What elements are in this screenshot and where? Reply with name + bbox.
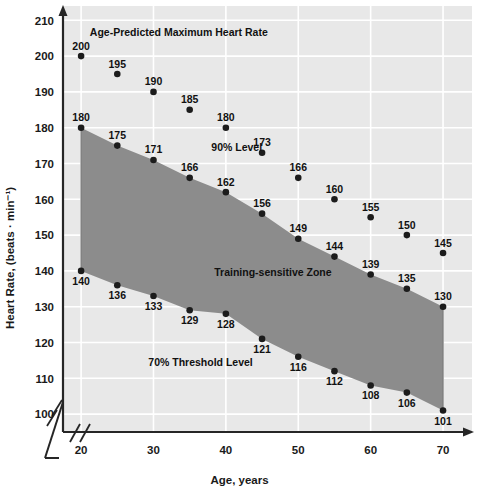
data-point[interactable]: [78, 53, 85, 60]
heart-rate-training-zone-chart: 2001951901851801731661601551501451801751…: [0, 0, 480, 496]
data-point-label: 160: [326, 183, 344, 195]
data-point[interactable]: [367, 382, 374, 389]
y-axis-tick-label: 140: [35, 265, 54, 277]
data-point-label: 162: [217, 176, 235, 188]
data-point-label: 140: [72, 275, 90, 287]
data-point[interactable]: [223, 311, 230, 318]
x-axis-tick-label: 30: [147, 444, 160, 456]
data-point[interactable]: [150, 157, 157, 164]
data-point-label: 144: [326, 240, 344, 252]
data-point-label: 112: [326, 375, 343, 387]
data-point-label: 130: [434, 290, 452, 302]
data-point[interactable]: [186, 175, 193, 182]
data-point[interactable]: [331, 368, 338, 375]
y-axis-title: Heart Rate, (beats · min⁻¹): [4, 187, 16, 329]
data-point-label: 156: [253, 197, 271, 209]
data-point-label: 149: [289, 222, 307, 234]
data-point-label: 136: [109, 289, 127, 301]
data-point[interactable]: [78, 268, 85, 275]
data-point-label: 155: [362, 201, 380, 213]
y-axis-tick-label: 160: [35, 194, 54, 206]
data-point[interactable]: [223, 189, 230, 196]
chart-annotation: Age-Predicted Maximum Heart Rate: [90, 26, 268, 38]
y-axis-tick-label: 180: [35, 122, 54, 134]
y-axis-tick-label: 150: [35, 229, 54, 241]
data-point-label: 180: [72, 111, 90, 123]
data-point-label: 200: [72, 40, 90, 52]
data-point-label: 166: [181, 161, 199, 173]
data-point-label: 145: [434, 237, 452, 249]
data-point-label: 121: [253, 343, 271, 355]
data-point-label: 175: [109, 129, 127, 141]
data-point[interactable]: [367, 214, 374, 221]
data-point[interactable]: [440, 303, 447, 310]
data-point[interactable]: [331, 253, 338, 260]
y-axis-tick-label: 210: [35, 15, 54, 27]
data-point-label: 180: [217, 111, 235, 123]
y-axis-tick-label: 120: [35, 337, 54, 349]
data-point[interactable]: [440, 250, 447, 257]
data-point[interactable]: [404, 389, 411, 396]
data-point[interactable]: [440, 407, 447, 414]
data-point-label: 135: [398, 272, 416, 284]
data-point-label: 195: [109, 58, 127, 70]
x-axis-tick-label: 70: [437, 444, 450, 456]
data-point-label: 150: [398, 219, 416, 231]
data-point-label: 133: [145, 300, 163, 312]
data-point[interactable]: [295, 235, 302, 242]
chart-annotation: 70% Threshold Level: [148, 356, 253, 368]
data-point[interactable]: [367, 271, 374, 278]
x-axis-tick-label: 40: [219, 444, 232, 456]
data-point[interactable]: [186, 307, 193, 314]
data-point-label: 129: [181, 314, 199, 326]
data-point[interactable]: [114, 282, 121, 289]
data-point[interactable]: [295, 175, 302, 182]
chart-figure: 2001951901851801731661601551501451801751…: [0, 0, 480, 496]
data-point[interactable]: [295, 354, 302, 361]
data-point[interactable]: [186, 107, 193, 114]
y-axis-tick-label: 170: [35, 158, 54, 170]
data-point-label: 128: [217, 318, 235, 330]
data-point[interactable]: [114, 142, 121, 149]
y-axis-tick-label: 190: [35, 86, 54, 98]
x-axis-tick-label: 20: [75, 444, 88, 456]
data-point-label: 116: [290, 361, 307, 373]
x-axis-tick-label: 50: [292, 444, 305, 456]
data-point[interactable]: [114, 71, 121, 78]
data-point-label: 185: [181, 93, 199, 105]
data-point[interactable]: [223, 124, 230, 131]
data-point-label: 108: [362, 389, 380, 401]
chart-annotation: 90% Level: [211, 141, 262, 153]
data-point[interactable]: [150, 89, 157, 96]
x-axis-title: Age, years: [210, 474, 268, 486]
data-point[interactable]: [259, 336, 266, 343]
x-axis-tick-label: 60: [364, 444, 377, 456]
data-point-label: 101: [434, 415, 452, 427]
data-point[interactable]: [259, 210, 266, 217]
data-point[interactable]: [404, 232, 411, 239]
chart-annotation: Training-sensitive Zone: [214, 266, 331, 278]
y-axis-tick-label: 130: [35, 301, 54, 313]
y-axis-tick-label: 100: [35, 408, 54, 420]
data-point[interactable]: [78, 124, 85, 131]
data-point-label: 171: [145, 143, 163, 155]
y-axis-tick-label: 200: [35, 50, 54, 62]
data-point[interactable]: [150, 293, 157, 300]
data-point[interactable]: [404, 286, 411, 293]
data-point-label: 139: [362, 258, 380, 270]
data-point-label: 166: [289, 161, 307, 173]
y-axis-tick-label: 110: [35, 373, 54, 385]
data-point-label: 190: [145, 75, 163, 87]
data-point-label: 106: [398, 397, 416, 409]
data-point[interactable]: [331, 196, 338, 203]
